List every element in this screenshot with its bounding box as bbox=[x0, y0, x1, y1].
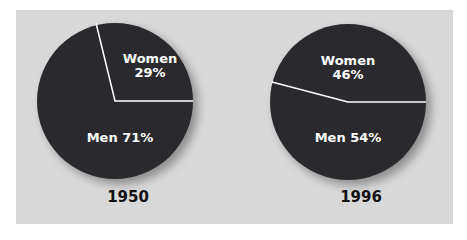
pie-1996 bbox=[270, 24, 426, 180]
pie-1950-women-pct: 29% bbox=[118, 66, 182, 80]
pie-1996-women-name: Women bbox=[316, 54, 380, 68]
pie-1996-women-pct: 46% bbox=[316, 68, 380, 82]
pie-1950-women-name: Women bbox=[118, 52, 182, 66]
pie-1950 bbox=[37, 23, 193, 179]
pie-1950-men-label: Men 71% bbox=[80, 131, 160, 145]
pie-1996-year: 1996 bbox=[321, 188, 401, 206]
pie-1996-men-label: Men 54% bbox=[308, 131, 388, 145]
pie-1950-women-label: Women 29% bbox=[118, 52, 182, 80]
pie-1996-women-label: Women 46% bbox=[316, 54, 380, 82]
pie-1950-year: 1950 bbox=[88, 188, 168, 206]
